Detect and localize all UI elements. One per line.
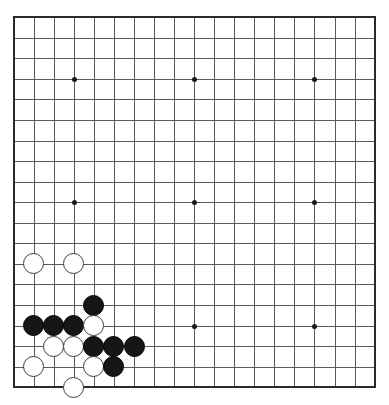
go-stone-white[interactable]: [43, 336, 64, 357]
go-stone-black[interactable]: [103, 336, 124, 357]
grid-line-vertical: [355, 17, 356, 387]
star-point: [72, 200, 77, 205]
go-stone-black[interactable]: [83, 295, 104, 316]
go-stone-black[interactable]: [63, 315, 84, 336]
grid-line-vertical: [134, 17, 135, 387]
go-stone-black[interactable]: [124, 336, 145, 357]
go-stone-white[interactable]: [63, 336, 84, 357]
grid-line-vertical: [254, 17, 255, 387]
board-border-top: [13, 16, 376, 18]
go-stone-white[interactable]: [83, 315, 104, 336]
go-stone-black[interactable]: [83, 336, 104, 357]
star-point: [312, 200, 317, 205]
go-stone-white[interactable]: [63, 253, 84, 274]
board-border-left: [13, 16, 15, 388]
star-point: [312, 77, 317, 82]
grid-line-vertical: [114, 17, 115, 387]
go-stone-black[interactable]: [43, 315, 64, 336]
star-point: [192, 200, 197, 205]
go-stone-white[interactable]: [23, 356, 44, 377]
star-point: [72, 77, 77, 82]
grid-line-vertical: [234, 17, 235, 387]
star-point: [192, 324, 197, 329]
grid-line-vertical: [294, 17, 295, 387]
board-border-right: [374, 16, 376, 388]
star-point: [312, 324, 317, 329]
star-point: [192, 77, 197, 82]
go-stone-white[interactable]: [63, 377, 84, 398]
grid-line-vertical: [174, 17, 175, 387]
go-stone-black[interactable]: [103, 356, 124, 377]
go-board[interactable]: [0, 0, 389, 405]
go-stone-black[interactable]: [23, 315, 44, 336]
go-stone-white[interactable]: [23, 253, 44, 274]
grid-line-vertical: [214, 17, 215, 387]
grid-line-vertical: [154, 17, 155, 387]
grid-line-vertical: [274, 17, 275, 387]
grid-line-vertical: [335, 17, 336, 387]
go-board-container: [0, 0, 389, 405]
go-stone-white[interactable]: [83, 356, 104, 377]
